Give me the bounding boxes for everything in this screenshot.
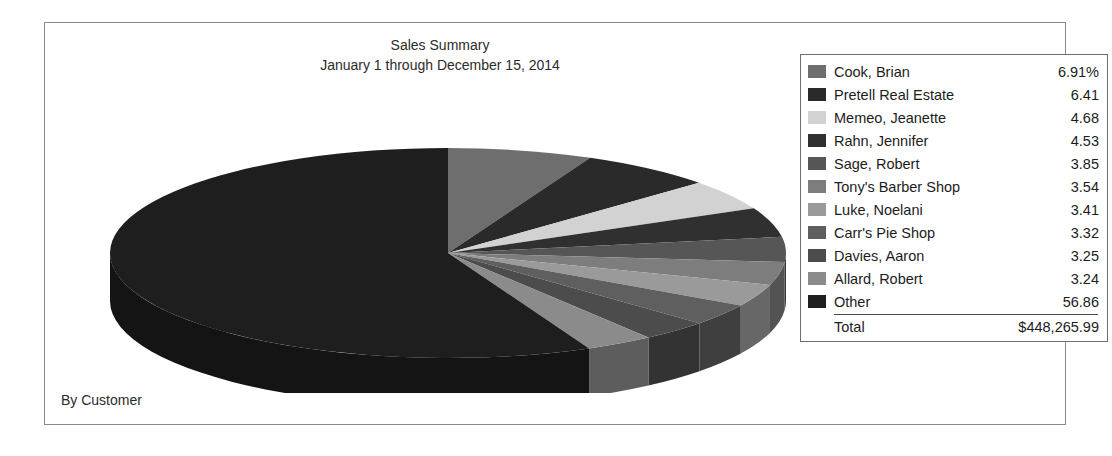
screenshot-root: Sales Summary January 1 through December… bbox=[0, 0, 1112, 456]
legend-item-label: Carr's Pie Shop bbox=[834, 225, 1065, 241]
legend-color-swatch bbox=[808, 203, 826, 216]
legend-total-row: Total $448,265.99 bbox=[808, 315, 1099, 339]
legend-item-value: 3.24 bbox=[1065, 271, 1099, 287]
legend-total-value: $448,265.99 bbox=[1012, 319, 1099, 335]
legend-item-value: 6.91% bbox=[1052, 64, 1099, 80]
legend-total-label: Total bbox=[834, 319, 1012, 335]
report-frame: Sales Summary January 1 through December… bbox=[44, 22, 1066, 425]
legend-item-value: 3.25 bbox=[1065, 248, 1099, 264]
legend-item-label: Cook, Brian bbox=[834, 64, 1052, 80]
legend-item: Davies, Aaron3.25 bbox=[808, 244, 1099, 267]
legend-list: Cook, Brian6.91%Pretell Real Estate6.41M… bbox=[808, 60, 1099, 313]
pie-slice-side bbox=[785, 253, 786, 310]
legend-item-value: 3.54 bbox=[1065, 179, 1099, 195]
legend-color-swatch bbox=[808, 249, 826, 262]
legend-item-label: Other bbox=[834, 294, 1057, 310]
legend-item: Luke, Noelani3.41 bbox=[808, 198, 1099, 221]
legend-color-swatch bbox=[808, 65, 826, 78]
legend-item: Memeo, Jeanette4.68 bbox=[808, 106, 1099, 129]
legend-item-value: 3.41 bbox=[1065, 202, 1099, 218]
pie-chart bbox=[65, 103, 805, 393]
legend-item-value: 3.32 bbox=[1065, 225, 1099, 241]
legend-item: Pretell Real Estate6.41 bbox=[808, 83, 1099, 106]
legend-color-swatch bbox=[808, 88, 826, 101]
legend-item: Other56.86 bbox=[808, 290, 1099, 313]
legend-item: Allard, Robert3.24 bbox=[808, 267, 1099, 290]
legend-color-swatch bbox=[808, 111, 826, 124]
legend-item-label: Rahn, Jennifer bbox=[834, 133, 1065, 149]
legend-item-value: 6.41 bbox=[1065, 87, 1099, 103]
legend-item: Carr's Pie Shop3.32 bbox=[808, 221, 1099, 244]
legend-item-value: 3.85 bbox=[1065, 156, 1099, 172]
legend-panel: Cook, Brian6.91%Pretell Real Estate6.41M… bbox=[800, 54, 1108, 342]
legend-item: Sage, Robert3.85 bbox=[808, 152, 1099, 175]
legend-item: Tony's Barber Shop3.54 bbox=[808, 175, 1099, 198]
legend-item-label: Davies, Aaron bbox=[834, 248, 1065, 264]
legend-item-value: 4.53 bbox=[1065, 133, 1099, 149]
legend-item-value: 56.86 bbox=[1057, 294, 1099, 310]
chart-title-line2: January 1 through December 15, 2014 bbox=[205, 55, 675, 75]
chart-title: Sales Summary January 1 through December… bbox=[205, 35, 675, 75]
legend-color-swatch bbox=[808, 295, 826, 308]
legend-color-swatch bbox=[808, 226, 826, 239]
legend-color-swatch bbox=[808, 272, 826, 285]
footer-label: By Customer bbox=[61, 392, 142, 408]
legend-color-swatch bbox=[808, 180, 826, 193]
legend-item-label: Tony's Barber Shop bbox=[834, 179, 1065, 195]
pie-chart-svg bbox=[65, 103, 805, 393]
legend-item-value: 4.68 bbox=[1065, 110, 1099, 126]
legend-item: Cook, Brian6.91% bbox=[808, 60, 1099, 83]
chart-title-line1: Sales Summary bbox=[205, 35, 675, 55]
legend-color-swatch bbox=[808, 134, 826, 147]
legend-color-swatch bbox=[808, 157, 826, 170]
pie-top-face bbox=[110, 148, 786, 358]
legend-item-label: Luke, Noelani bbox=[834, 202, 1065, 218]
legend-item-label: Allard, Robert bbox=[834, 271, 1065, 287]
legend-item-label: Memeo, Jeanette bbox=[834, 110, 1065, 126]
legend-item-label: Sage, Robert bbox=[834, 156, 1065, 172]
legend-item-label: Pretell Real Estate bbox=[834, 87, 1065, 103]
legend-item: Rahn, Jennifer4.53 bbox=[808, 129, 1099, 152]
